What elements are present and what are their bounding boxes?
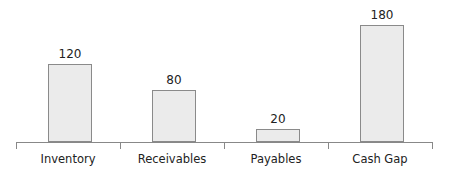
category-label: Payables <box>224 152 328 166</box>
data-label: 80 <box>144 73 204 87</box>
x-axis-tick <box>16 142 17 149</box>
data-label: 120 <box>40 47 100 61</box>
category-label: Receivables <box>120 152 224 166</box>
bar-payables <box>256 129 300 142</box>
bar-cash-gap <box>360 25 404 142</box>
x-axis-tick <box>432 142 433 149</box>
data-label: 180 <box>352 8 412 22</box>
bar-inventory <box>48 64 92 142</box>
category-label: Inventory <box>16 152 120 166</box>
bar-chart: 120Inventory80Receivables20Payables180Ca… <box>0 0 450 175</box>
x-axis-tick <box>224 142 225 149</box>
category-label: Cash Gap <box>328 152 432 166</box>
x-axis-tick <box>328 142 329 149</box>
data-label: 20 <box>248 112 308 126</box>
x-axis-tick <box>120 142 121 149</box>
bar-receivables <box>152 90 196 142</box>
